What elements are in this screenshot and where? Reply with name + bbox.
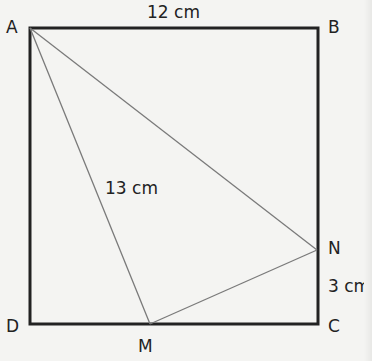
segment-an <box>30 28 317 250</box>
vertex-label-d: D <box>6 318 19 335</box>
rectangle-abcd <box>30 28 318 324</box>
measure-am: 13 cm <box>105 180 158 197</box>
vertex-label-m: M <box>138 338 153 355</box>
diagram-canvas <box>0 0 372 361</box>
page-edge <box>364 0 372 361</box>
measure-ab: 12 cm <box>147 4 200 21</box>
vertex-label-a: A <box>6 19 18 36</box>
segment-am <box>30 28 150 324</box>
segment-mn <box>150 250 317 324</box>
vertex-label-b: B <box>328 19 340 36</box>
vertex-label-n: N <box>328 240 341 257</box>
vertex-label-c: C <box>328 318 340 335</box>
